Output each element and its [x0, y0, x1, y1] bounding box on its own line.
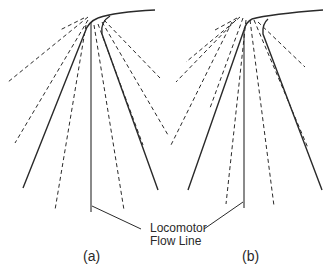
panel-b-road-left-edge [188, 19, 252, 190]
panel-b-flow-diagram [170, 10, 323, 208]
panel-a-flow-vectors [8, 17, 168, 210]
callout-leader-b [204, 202, 243, 229]
panel-b-road-right-edge [263, 19, 322, 190]
callout-label: Locomotor Flow Line [150, 222, 207, 248]
panel-b-road-top-edge [252, 10, 323, 19]
panel-a-road-left-edge [23, 18, 98, 188]
panel-a-label: (a) [83, 248, 100, 264]
callout-leader-a [92, 206, 141, 229]
panel-a-road-top-edge [98, 10, 155, 18]
panel-b-label: (b) [242, 248, 259, 264]
panel-a-flow-diagram [8, 10, 168, 212]
callout-line-2: Flow Line [150, 235, 207, 248]
